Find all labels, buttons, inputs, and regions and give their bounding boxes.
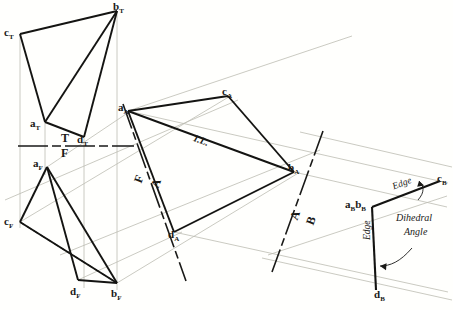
point-label-a-front: aF: [33, 157, 43, 172]
edge-label-side: Edge: [362, 220, 372, 240]
dihedral-angle-label-line1: Dihedral: [396, 212, 432, 223]
point-label-b-front: bF: [111, 287, 121, 302]
front-view-edges: [20, 167, 117, 283]
point-label-b-aux-a: bA: [288, 161, 299, 176]
dihedral-angle-label-line2: Angle: [404, 226, 427, 237]
point-label-b-top: bT: [113, 0, 124, 15]
front-view-hidden-edge: [20, 222, 117, 283]
point-label-c-aux-b: cB: [437, 172, 447, 187]
point-label-ab-aux-b: aBbB: [345, 198, 366, 213]
fold-label-t: T: [61, 131, 69, 146]
fold-line-ab: [272, 131, 323, 272]
point-label-a-aux-a: aA: [118, 101, 129, 116]
point-label-c-front: cF: [4, 215, 13, 230]
point-label-d-aux-b: dB: [374, 288, 385, 303]
descriptive-geometry-drawing: cT bT aT dT aF cF dF bF aA cA bA dA aBbB…: [0, 0, 453, 310]
point-label-c-aux-a: cA: [222, 85, 232, 100]
fold-label-f: F: [61, 146, 68, 161]
point-label-d-aux-a: dA: [168, 228, 179, 243]
point-label-a-top: aT: [30, 117, 40, 132]
point-label-d-front: dF: [70, 285, 80, 300]
point-label-d-top: dT: [77, 133, 88, 148]
point-label-c-top: cT: [4, 26, 14, 41]
dihedral-leaders: [380, 181, 423, 266]
